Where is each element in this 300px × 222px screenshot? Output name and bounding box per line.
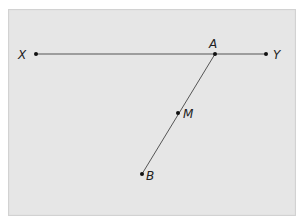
- geometry-diagram: X A Y M B: [0, 0, 300, 222]
- point-b: [140, 172, 144, 176]
- label-x: X: [17, 48, 27, 62]
- point-y: [264, 52, 268, 56]
- point-m: [176, 111, 180, 115]
- point-a: [213, 52, 217, 56]
- label-b: B: [146, 169, 154, 183]
- point-x: [34, 52, 38, 56]
- label-a: A: [208, 37, 217, 51]
- label-m: M: [183, 107, 194, 121]
- label-y: Y: [273, 48, 282, 62]
